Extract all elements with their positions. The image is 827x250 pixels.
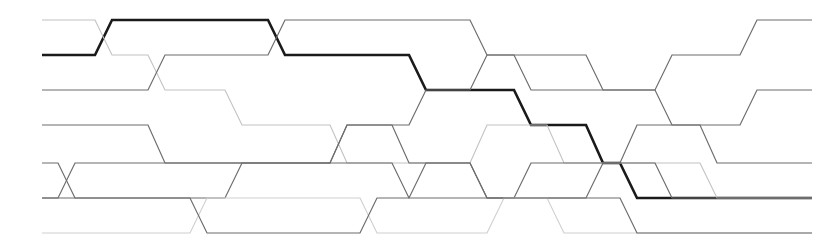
- strand-group: [42, 20, 812, 233]
- braid-diagram-canvas: [0, 0, 827, 250]
- strand-lane5-crossover: [42, 125, 812, 198]
- braid-strands-svg: [0, 0, 827, 250]
- highlighted-strand: [42, 20, 812, 198]
- strand-lane0-start: [42, 20, 812, 198]
- strand-rising-midline: [42, 20, 812, 90]
- strand-lane4-crossover: [42, 90, 812, 198]
- strand-bottom-lane: [42, 198, 812, 233]
